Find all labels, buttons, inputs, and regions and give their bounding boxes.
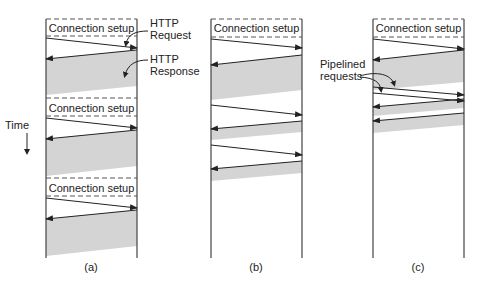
response-shade xyxy=(211,121,302,140)
response-shade xyxy=(373,99,464,116)
request-arrow xyxy=(211,145,302,155)
http-request-annotation: HTTP Request xyxy=(126,17,191,44)
panel-c: Connection setup Pipelined requests (c) xyxy=(320,19,464,273)
panel-caption: (b) xyxy=(249,261,262,273)
request-arrow xyxy=(211,105,302,115)
request-arrow xyxy=(46,198,137,208)
time-axis: Time xyxy=(5,119,29,152)
response-shade xyxy=(211,55,302,100)
connection-setup-label: Connection setup xyxy=(214,22,300,34)
http-response-label-1: HTTP xyxy=(150,53,179,65)
http-request-label-2: Request xyxy=(150,29,191,41)
request-arrow xyxy=(373,39,464,49)
panel-caption: (a) xyxy=(84,261,97,273)
panel-caption: (c) xyxy=(412,261,425,273)
response-shade xyxy=(373,50,464,90)
pipelined-label-2: requests xyxy=(320,70,363,82)
response-shade xyxy=(46,210,137,256)
request-arrow xyxy=(46,38,137,48)
http-request-label-1: HTTP xyxy=(150,17,179,29)
pipelined-label-1: Pipelined xyxy=(320,58,365,70)
response-shade xyxy=(211,161,302,181)
connection-setup-label: Connection setup xyxy=(49,182,135,194)
connection-setup-label: Connection setup xyxy=(376,22,462,34)
response-shade xyxy=(46,130,137,176)
panel-a: Connection setup Connection setup Connec… xyxy=(5,17,200,273)
time-label: Time xyxy=(5,119,29,131)
http-response-label-2: Response xyxy=(150,65,200,77)
request-arrow xyxy=(46,118,137,128)
response-shade xyxy=(373,113,464,133)
panel-b: Connection setup (b) xyxy=(211,19,302,273)
http-connections-diagram: Connection setup Connection setup Connec… xyxy=(0,0,481,293)
connection-setup-label: Connection setup xyxy=(49,22,135,34)
response-shade xyxy=(46,50,137,95)
connection-setup-label: Connection setup xyxy=(49,102,135,114)
request-arrow xyxy=(211,39,302,48)
